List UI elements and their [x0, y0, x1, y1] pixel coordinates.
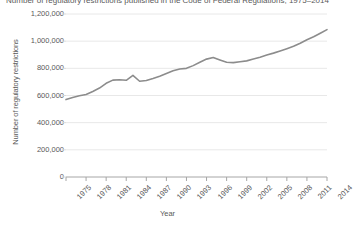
x-axis-tick-label: 1990 [175, 183, 193, 201]
x-axis-tick-label: 2011 [316, 183, 334, 201]
x-axis-tick-label: 1999 [235, 183, 253, 201]
x-axis-tick-label: 1987 [155, 183, 173, 201]
x-axis-tick-label: 2014 [336, 183, 354, 201]
x-axis-tick-label: 1978 [95, 183, 113, 201]
x-axis-tick-label: 1981 [115, 183, 133, 201]
x-axis-tick-label: 2008 [296, 183, 314, 201]
x-axis-tick-label: 2005 [276, 183, 294, 201]
x-axis-tick-label: 1993 [195, 183, 213, 201]
x-axis-tick-label: 1996 [215, 183, 233, 201]
x-axis-tick-label: 2002 [256, 183, 274, 201]
x-axis-tick-label: 1975 [75, 183, 93, 201]
x-axis-tick-label: 1984 [135, 183, 153, 201]
x-axis-title: Year [0, 209, 335, 218]
